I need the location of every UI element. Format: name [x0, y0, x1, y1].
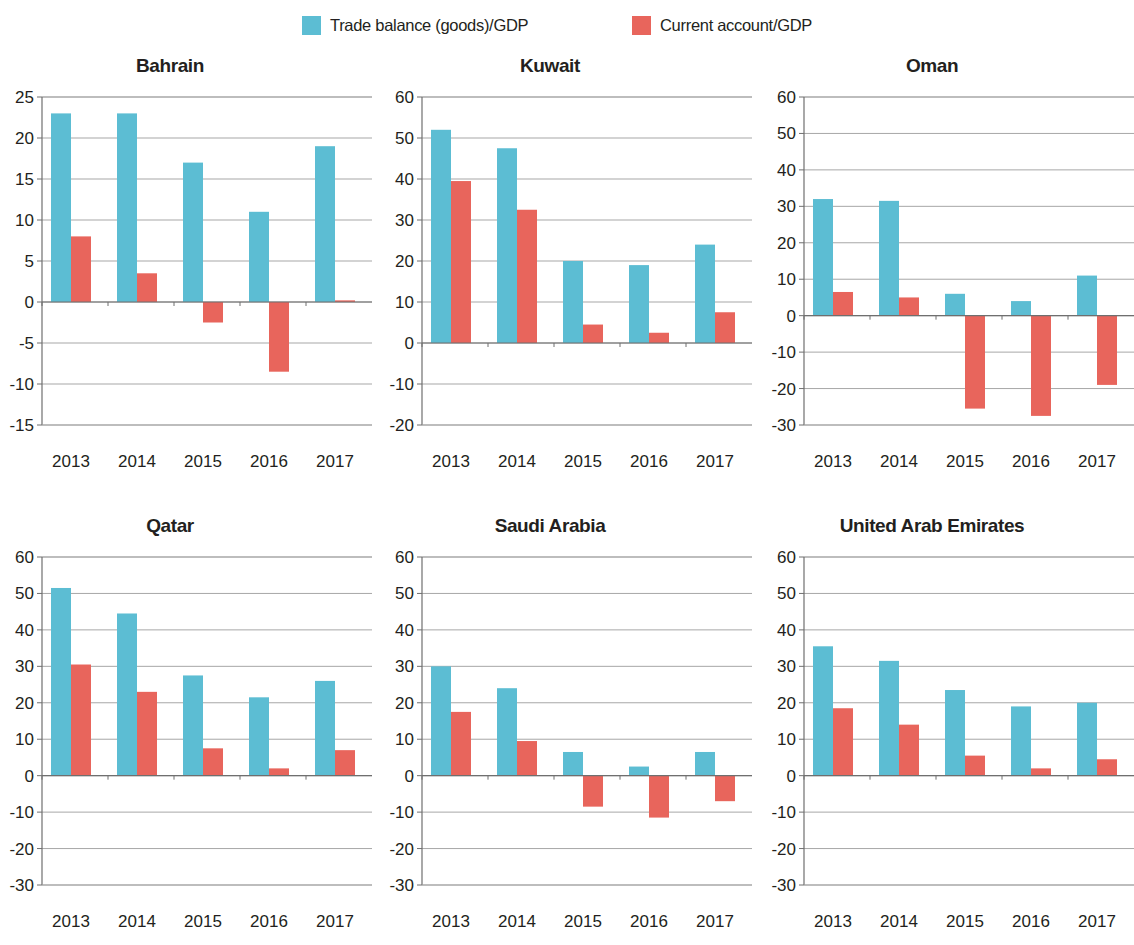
plot-area: 6050403020100-10-20-30201320142015201620… [380, 547, 752, 945]
y-axis-tick-label: 40 [395, 621, 414, 640]
bar [649, 776, 669, 818]
x-axis-tick-label: 2016 [630, 452, 668, 471]
bar [879, 661, 899, 776]
y-axis-tick-label: 50 [777, 584, 796, 603]
y-axis-tick-label: 10 [395, 293, 414, 312]
x-axis-tick-label: 2017 [316, 912, 354, 931]
y-axis-tick-label: -20 [389, 840, 414, 859]
x-axis-tick-label: 2015 [184, 452, 222, 471]
chart-panel-kuwait: Kuwait 6050403020100-10-2020132014201520… [380, 55, 752, 495]
y-axis-tick-label: -10 [389, 803, 414, 822]
bar [51, 113, 71, 302]
bar [1077, 703, 1097, 776]
y-axis-tick-label: 60 [15, 548, 34, 567]
chart-panel-grid: Bahrain 2520151050-5-10-1520132014201520… [0, 55, 1118, 945]
x-axis-tick-label: 2015 [946, 452, 984, 471]
bar-chart-svg: 6050403020100-10-20-30201320142015201620… [380, 547, 752, 945]
x-axis-tick-label: 2015 [184, 912, 222, 931]
y-axis-tick-label: 50 [777, 124, 796, 143]
legend-label: Trade balance (goods)/GDP [330, 16, 528, 35]
y-axis-tick-label: -10 [771, 343, 796, 362]
y-axis-tick-label: 20 [15, 694, 34, 713]
x-axis-tick-label: 2017 [1078, 452, 1116, 471]
bar [203, 302, 223, 323]
y-axis-tick-label: -30 [9, 876, 34, 895]
bar [431, 666, 451, 775]
x-axis-tick-label: 2014 [880, 912, 918, 931]
y-axis-tick-label: 60 [777, 548, 796, 567]
bar [695, 245, 715, 343]
bar [183, 675, 203, 775]
bar [715, 776, 735, 802]
bar [1077, 276, 1097, 316]
y-axis-tick-label: 20 [395, 694, 414, 713]
plot-area: 6050403020100-10-20-30201320142015201620… [762, 87, 1134, 495]
y-axis-tick-label: 20 [395, 252, 414, 271]
y-axis-tick-label: 5 [25, 252, 34, 271]
bar [813, 199, 833, 316]
bar [269, 302, 289, 372]
bar [269, 768, 289, 775]
bar [71, 236, 91, 302]
bar [649, 333, 669, 343]
x-axis-tick-label: 2016 [630, 912, 668, 931]
bar [497, 148, 517, 343]
x-axis-tick-label: 2016 [250, 452, 288, 471]
bar [945, 690, 965, 776]
bar [965, 316, 985, 409]
bar [1031, 768, 1051, 775]
plot-area: 2520151050-5-10-1520132014201520162017 [0, 87, 372, 495]
y-axis-tick-label: -10 [9, 375, 34, 394]
y-axis-tick-label: 40 [777, 621, 796, 640]
bar [583, 776, 603, 807]
chart-panel-saudi-arabia: Saudi Arabia 6050403020100-10-20-3020132… [380, 515, 752, 945]
y-axis-tick-label: -20 [389, 416, 414, 435]
bar [563, 752, 583, 776]
bar [833, 292, 853, 316]
y-axis-tick-label: -10 [771, 803, 796, 822]
y-axis-tick-label: 30 [15, 657, 34, 676]
chart-panel-qatar: Qatar 6050403020100-10-20-30201320142015… [0, 515, 372, 945]
x-axis-tick-label: 2014 [880, 452, 918, 471]
bar [71, 665, 91, 776]
y-axis-tick-label: 10 [15, 211, 34, 230]
y-axis-tick-label: 40 [395, 170, 414, 189]
legend-swatch-icon [302, 16, 321, 35]
x-axis-tick-label: 2017 [316, 452, 354, 471]
plot-area: 6050403020100-10-2020132014201520162017 [380, 87, 752, 495]
y-axis-tick-label: 25 [15, 88, 34, 107]
panel-title: Qatar [0, 515, 340, 537]
bar [315, 681, 335, 776]
bar [1097, 316, 1117, 385]
y-axis-tick-label: 30 [395, 657, 414, 676]
y-axis-tick-label: 10 [777, 730, 796, 749]
y-axis-tick-label: -5 [19, 334, 34, 353]
x-axis-tick-label: 2013 [52, 912, 90, 931]
y-axis-tick-label: 20 [15, 129, 34, 148]
y-axis-tick-label: 30 [777, 657, 796, 676]
bar [1011, 301, 1031, 316]
y-axis-tick-label: 30 [777, 197, 796, 216]
y-axis-tick-label: -20 [771, 380, 796, 399]
panel-title: United Arab Emirates [762, 515, 1102, 537]
y-axis-tick-label: -10 [389, 375, 414, 394]
bar [629, 767, 649, 776]
bar [715, 312, 735, 343]
y-axis-tick-label: 40 [777, 161, 796, 180]
bar [203, 748, 223, 775]
bar [629, 265, 649, 343]
bar [1031, 316, 1051, 416]
y-axis-tick-label: 0 [25, 767, 34, 786]
bar [879, 201, 899, 316]
bar [563, 261, 583, 343]
y-axis-tick-label: 30 [395, 211, 414, 230]
bar-chart-svg: 6050403020100-10-20-30201320142015201620… [762, 87, 1134, 495]
y-axis-tick-label: 15 [15, 170, 34, 189]
bar [517, 210, 537, 343]
y-axis-tick-label: 20 [777, 694, 796, 713]
x-axis-tick-label: 2017 [1078, 912, 1116, 931]
plot-area: 6050403020100-10-20-30201320142015201620… [0, 547, 372, 945]
x-axis-tick-label: 2013 [432, 912, 470, 931]
x-axis-tick-label: 2017 [696, 912, 734, 931]
chart-panel-oman: Oman 6050403020100-10-20-302013201420152… [762, 55, 1134, 495]
